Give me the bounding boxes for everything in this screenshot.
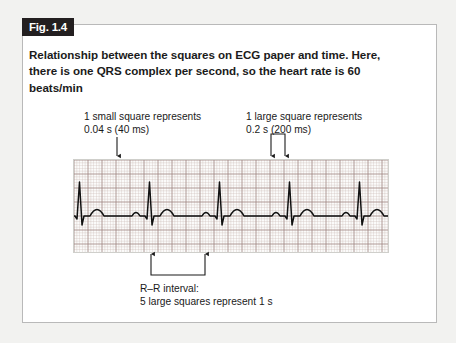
figure-number-badge: Fig. 1.4 bbox=[22, 18, 74, 36]
ecg-graph-paper bbox=[74, 160, 388, 252]
annotation-rr-interval-line2: 5 large squares represent 1 s bbox=[140, 296, 273, 309]
annotation-large-square-line1: 1 large square represents bbox=[246, 111, 362, 124]
annotation-small-square-line1: 1 small square represents bbox=[84, 111, 201, 124]
annotation-small-square: 1 small square represents 0.04 s (40 ms) bbox=[84, 111, 201, 136]
figure-caption: Relationship between the squares on ECG … bbox=[29, 47, 397, 96]
annotation-small-square-line2: 0.04 s (40 ms) bbox=[84, 124, 201, 137]
annotation-large-square-line2: 0.2 s (200 ms) bbox=[246, 124, 362, 137]
annotation-rr-interval: R–R interval: 5 large squares represent … bbox=[140, 283, 273, 308]
annotation-rr-interval-line1: R–R interval: bbox=[140, 283, 273, 296]
ecg-waveform-trace bbox=[74, 160, 388, 252]
annotation-large-square: 1 large square represents 0.2 s (200 ms) bbox=[246, 111, 362, 136]
